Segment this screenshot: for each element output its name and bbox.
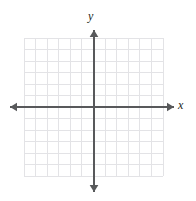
axes-group xyxy=(10,30,174,192)
coordinate-plane-graphic xyxy=(0,0,196,201)
x-axis-arrow-right xyxy=(167,103,174,112)
y-axis-arrow-down xyxy=(90,185,99,192)
x-axis-arrow-left xyxy=(10,103,17,112)
y-axis-label: y xyxy=(88,10,93,22)
coordinate-plane-screenshot: y x xyxy=(0,0,196,201)
y-axis-arrow-up xyxy=(90,30,99,37)
x-axis-label: x xyxy=(178,99,183,111)
